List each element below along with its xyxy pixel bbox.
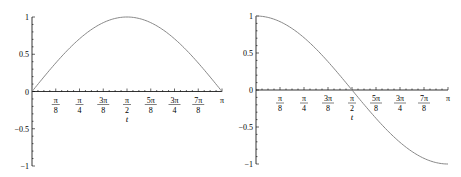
- x-tick-numerator: π: [220, 96, 224, 105]
- x-tick-denominator: 8: [149, 106, 153, 115]
- x-tick-numerator: π: [350, 94, 354, 103]
- x-tick-label: π: [446, 94, 450, 103]
- y-tick-label: 0: [25, 88, 29, 97]
- x-tick-denominator: 4: [302, 104, 306, 113]
- x-tick-numerator: π: [446, 94, 450, 103]
- x-tick-label: 3π4: [169, 96, 181, 115]
- x-tick-label: 3π8: [322, 94, 334, 113]
- x-tick-numerator: π: [302, 94, 306, 103]
- y-tick-label: 1: [25, 13, 29, 22]
- x-axis-label: t: [351, 112, 354, 122]
- sin-plot: 10.50−0.5−1π8π43π8π25π83π47π8πt: [14, 13, 224, 171]
- x-tick-denominator: 8: [374, 104, 378, 113]
- x-tick-numerator: 7π: [420, 94, 428, 103]
- x-tick-numerator: 3π: [324, 94, 332, 103]
- x-tick-numerator: 7π: [194, 96, 202, 105]
- x-tick-numerator: 5π: [147, 96, 155, 105]
- x-tick-label: 5π8: [370, 94, 382, 113]
- y-tick-label: 0: [249, 86, 253, 95]
- x-tick-denominator: 4: [173, 106, 177, 115]
- x-tick-numerator: π: [125, 96, 129, 105]
- y-tick-label: −0.5: [14, 125, 29, 134]
- y-tick-label: 1: [249, 12, 253, 21]
- x-tick-numerator: π: [77, 96, 81, 105]
- x-tick-label: π8: [276, 94, 284, 113]
- x-tick-denominator: 8: [326, 104, 330, 113]
- x-tick-denominator: 4: [398, 104, 402, 113]
- cos-plot: 10.50−0.5−1π8π43π8π25π83π47π8πt: [238, 12, 450, 169]
- x-tick-numerator: 3π: [396, 94, 404, 103]
- x-tick-denominator: 4: [78, 106, 82, 115]
- x-tick-denominator: 8: [422, 104, 426, 113]
- x-tick-denominator: 8: [278, 104, 282, 113]
- x-tick-label: π8: [52, 96, 60, 115]
- y-tick-label: −1: [20, 162, 29, 171]
- series-line-sint: [32, 17, 222, 92]
- y-tick-label: −0.5: [238, 123, 253, 132]
- x-tick-label: π: [220, 96, 224, 105]
- x-tick-numerator: 5π: [372, 94, 380, 103]
- x-tick-label: 7π8: [192, 96, 204, 115]
- x-axis-label: t: [126, 114, 129, 124]
- x-tick-label: π4: [300, 94, 308, 113]
- y-tick-label: 0.5: [243, 49, 253, 58]
- x-tick-label: 7π8: [418, 94, 430, 113]
- y-tick-label: 0.5: [19, 50, 29, 59]
- x-tick-denominator: 8: [54, 106, 58, 115]
- x-tick-denominator: 8: [196, 106, 200, 115]
- x-tick-denominator: 8: [101, 106, 105, 115]
- x-tick-numerator: 3π: [99, 96, 107, 105]
- x-tick-label: π2: [348, 94, 356, 113]
- y-tick-label: −1: [244, 160, 253, 169]
- x-tick-numerator: 3π: [170, 96, 178, 105]
- x-tick-label: π2: [123, 96, 131, 115]
- x-tick-label: 3π8: [97, 96, 109, 115]
- x-tick-numerator: π: [54, 96, 58, 105]
- x-tick-label: 5π8: [145, 96, 157, 115]
- chart-canvas: 10.50−0.5−1π8π43π8π25π83π47π8πt 10.50−0.…: [0, 0, 461, 177]
- x-tick-label: 3π4: [394, 94, 406, 113]
- x-tick-numerator: π: [278, 94, 282, 103]
- x-tick-label: π4: [76, 96, 84, 115]
